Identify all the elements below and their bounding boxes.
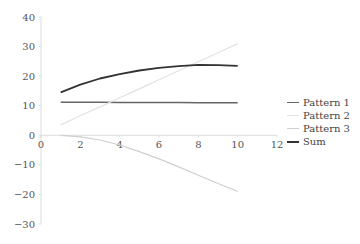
- y-tick-label: 20: [22, 71, 35, 82]
- legend-item-pattern-2: Pattern 2: [287, 109, 350, 122]
- axes: 403020100−10−20−30024681012: [14, 12, 283, 230]
- legend-label: Sum: [303, 135, 326, 148]
- y-tick-label: −10: [14, 159, 35, 170]
- legend-swatch-pattern-3: [287, 128, 299, 129]
- y-tick-label: 30: [22, 41, 35, 52]
- x-tick-label: 12: [271, 139, 284, 150]
- series-group: [61, 44, 238, 192]
- legend-item-sum: Sum: [287, 135, 350, 148]
- y-tick-label: −30: [14, 219, 35, 230]
- x-tick-label: 6: [156, 139, 162, 150]
- legend-label: Pattern 1: [303, 96, 350, 109]
- legend-swatch-pattern-1: [287, 102, 299, 103]
- legend-item-pattern-1: Pattern 1: [287, 96, 350, 109]
- x-tick-label: 2: [77, 139, 83, 150]
- x-tick-label: 8: [195, 139, 201, 150]
- series-pattern-3: [61, 135, 238, 191]
- legend-item-pattern-3: Pattern 3: [287, 122, 350, 135]
- y-tick-label: 10: [22, 100, 35, 111]
- y-tick-label: 0: [29, 130, 35, 141]
- x-tick-label: 10: [231, 139, 244, 150]
- legend-swatch-pattern-2: [287, 115, 299, 116]
- series-sum: [61, 65, 238, 93]
- series-pattern-2: [61, 44, 238, 125]
- x-tick-label: 0: [38, 139, 44, 150]
- legend-label: Pattern 2: [303, 109, 350, 122]
- series-pattern-1: [61, 102, 238, 103]
- legend-swatch-sum: [287, 141, 299, 143]
- y-tick-label: 40: [22, 12, 35, 23]
- legend-label: Pattern 3: [303, 122, 350, 135]
- legend: Pattern 1 Pattern 2 Pattern 3 Sum: [287, 96, 350, 148]
- y-tick-label: −20: [14, 189, 35, 200]
